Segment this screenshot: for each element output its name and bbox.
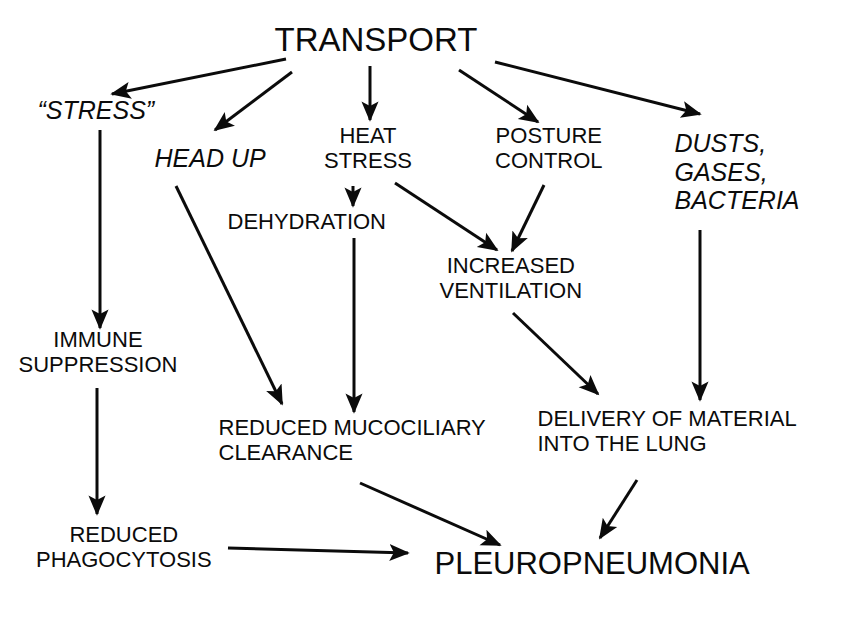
node-transport: TRANSPORT: [275, 21, 478, 59]
edge-transport-dusts: [495, 62, 700, 114]
edge-heat-stress-increased-v: [395, 183, 497, 250]
edge-transport-stress: [112, 59, 286, 94]
node-posture: POSTURE CONTROL: [495, 123, 603, 173]
node-delivery: DELIVERY OF MATERIAL INTO THE LUNG: [538, 406, 797, 456]
node-increased_v: INCREASED VENTILATION: [440, 253, 583, 303]
node-stress: “STRESS”: [38, 96, 155, 125]
node-immune: IMMUNE SUPPRESSION: [19, 327, 178, 377]
node-phagocytosis: REDUCED PHAGOCYTOSIS: [36, 522, 212, 572]
edge-transport-posture: [459, 70, 538, 122]
node-dusts: DUSTS, GASES, BACTERIA: [675, 129, 800, 215]
edge-transport-head-up: [215, 72, 292, 130]
edge-reduced-muco-pleuro: [360, 483, 500, 545]
edge-increased-v-delivery: [513, 313, 598, 394]
edge-phagocytosis-pleuro: [228, 548, 408, 553]
flowchart-canvas: TRANSPORT“STRESS”HEAD UPHEAT STRESSPOSTU…: [0, 0, 849, 617]
node-head_up: HEAD UP: [155, 144, 266, 173]
node-heat_stress: HEAT STRESS: [324, 123, 412, 173]
node-reduced_muco: REDUCED MUCOCILIARY CLEARANCE: [219, 415, 486, 465]
node-dehydration: DEHYDRATION: [228, 209, 387, 234]
edge-posture-increased-v: [512, 185, 544, 251]
node-pleuro: PLEUROPNEUMONIA: [435, 546, 750, 581]
edge-delivery-pleuro: [600, 480, 637, 538]
